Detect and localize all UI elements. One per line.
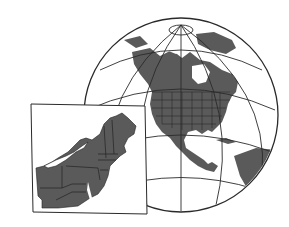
south-america-land [234, 148, 282, 206]
illustration [0, 0, 289, 227]
inset-map [31, 104, 147, 214]
